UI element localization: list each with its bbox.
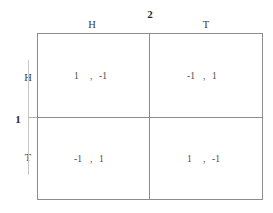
- payoff-separator: ,: [90, 154, 99, 164]
- payoff-cell-t-t: 1,-1: [150, 118, 263, 200]
- payoff-separator: ,: [203, 71, 212, 81]
- column-player-label: 2: [143, 8, 157, 20]
- row-payoff-value: 1: [74, 71, 90, 81]
- payoff-cell-h-h: 1,-1: [38, 34, 149, 117]
- column-header-h: H: [82, 19, 102, 30]
- payoff-pair: 1,-1: [74, 71, 113, 81]
- row-divider-stub: [28, 117, 37, 118]
- payoff-pair: -1,1: [74, 154, 113, 164]
- payoff-matrix-figure: 2 1 H T H T 1,-1 -1,1 -1,1 1,-1: [0, 0, 273, 213]
- row-payoff-value: -1: [74, 154, 90, 164]
- column-payoff-value: -1: [99, 71, 113, 81]
- column-header-t: T: [196, 19, 216, 30]
- payoff-pair: -1,1: [187, 71, 226, 81]
- column-payoff-value: 1: [212, 71, 226, 81]
- row-payoff-value: 1: [187, 154, 203, 164]
- column-payoff-value: 1: [99, 154, 113, 164]
- payoff-cell-t-h: -1,1: [38, 118, 149, 200]
- payoff-separator: ,: [203, 154, 212, 164]
- payoff-separator: ,: [90, 71, 99, 81]
- payoff-pair: 1,-1: [187, 154, 226, 164]
- row-payoff-value: -1: [187, 71, 203, 81]
- row-player-label: 1: [11, 113, 25, 125]
- payoff-cell-h-t: -1,1: [150, 34, 263, 117]
- column-payoff-value: -1: [212, 154, 226, 164]
